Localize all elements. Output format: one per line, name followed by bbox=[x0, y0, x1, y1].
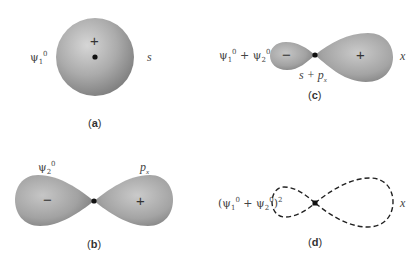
panel-d-probability-density bbox=[272, 178, 393, 227]
hybrid-small-lobe bbox=[270, 42, 315, 70]
p-orbital-negative-lobe bbox=[15, 175, 94, 226]
caption-a: (a) bbox=[88, 117, 101, 129]
caption-b: (b) bbox=[87, 238, 101, 250]
px-label: px bbox=[140, 160, 149, 176]
density-large-loop bbox=[315, 178, 393, 227]
orbital-diagram bbox=[0, 0, 419, 265]
nucleus-dot bbox=[91, 198, 96, 203]
panel-b-p-orbital bbox=[15, 175, 173, 226]
psi2-label: ψ20 bbox=[38, 160, 56, 176]
caption-d: (d) bbox=[308, 236, 322, 248]
s-label: s bbox=[147, 50, 152, 65]
s-plus-px-label: s + px bbox=[299, 68, 327, 84]
positive-sign: + bbox=[136, 193, 145, 208]
positive-sign: + bbox=[90, 33, 99, 48]
x-axis-label: x bbox=[400, 196, 405, 211]
caption-c: (c) bbox=[308, 89, 321, 101]
negative-sign: − bbox=[282, 47, 291, 62]
nucleus-dot bbox=[313, 201, 318, 206]
positive-sign: + bbox=[356, 47, 365, 62]
psi-sum-squared-label: (ψ10 + ψ20)2 bbox=[218, 196, 282, 212]
p-orbital-positive-lobe bbox=[94, 175, 173, 226]
nucleus-dot bbox=[92, 54, 97, 59]
nucleus-dot bbox=[312, 52, 317, 57]
negative-sign: − bbox=[43, 192, 52, 207]
x-axis-label: x bbox=[400, 49, 405, 64]
psi-sum-label: ψ10 + ψ20 bbox=[219, 48, 270, 64]
psi1-label: ψ10 bbox=[30, 50, 48, 66]
panel-a-s-orbital bbox=[56, 18, 134, 96]
